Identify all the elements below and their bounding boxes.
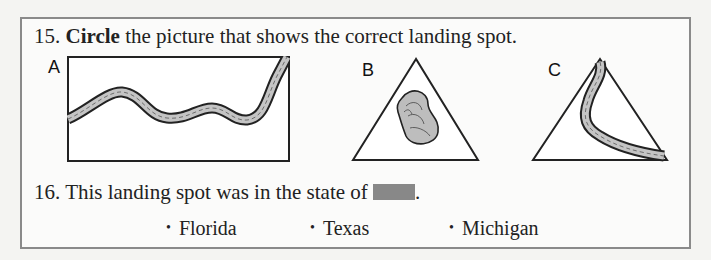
bullet-icon: •	[449, 220, 454, 235]
picture-a-label: A	[48, 57, 60, 78]
option-texas[interactable]: •Texas	[310, 217, 369, 240]
answer-blank[interactable]	[373, 184, 415, 200]
picture-c-river-map[interactable]	[530, 56, 670, 164]
picture-b-lake-map[interactable]	[350, 56, 482, 164]
option-michigan[interactable]: •Michigan	[449, 217, 539, 240]
question-text: This landing spot was in the state of	[65, 180, 373, 204]
question-number: 16.	[34, 180, 60, 204]
bullet-icon: •	[310, 220, 315, 235]
picture-a-river-map[interactable]	[67, 56, 290, 162]
question-text: the picture that shows the correct landi…	[120, 24, 517, 48]
question-period: .	[415, 180, 420, 204]
bullet-icon: •	[166, 220, 171, 235]
question-verb: Circle	[66, 24, 120, 48]
question-15: 15. Circle the picture that shows the co…	[34, 24, 517, 49]
question-16: 16. This landing spot was in the state o…	[34, 180, 420, 205]
question-number: 15.	[34, 24, 60, 48]
option-florida[interactable]: •Florida	[166, 217, 237, 240]
